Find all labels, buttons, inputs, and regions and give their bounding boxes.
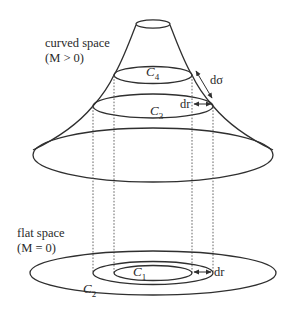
curved-space-label: curved space <box>45 36 110 50</box>
flat-outer-ellipse <box>30 251 276 295</box>
circle-c2-label: C2 <box>83 281 96 299</box>
funnel-top-ellipse <box>136 20 170 28</box>
curved-vs-flat-space-diagram: curved space (M > 0) flat space (M = 0) … <box>0 0 289 312</box>
flat-space-label: flat space <box>17 226 65 240</box>
dr-curved-label: dr <box>180 97 191 111</box>
circle-c1 <box>114 266 192 281</box>
dr-flat-label: dr <box>214 265 225 279</box>
flat-space-condition: (M = 0) <box>17 241 56 255</box>
flat-space-plane <box>30 251 276 295</box>
dsigma-label: dσ <box>210 73 223 87</box>
funnel-right-flank <box>170 25 273 150</box>
curved-space-condition: (M > 0) <box>45 51 84 65</box>
funnel-base-ellipse <box>33 128 273 182</box>
